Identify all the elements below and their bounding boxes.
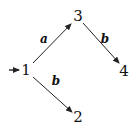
- state-node-4: 4: [119, 64, 129, 79]
- edge-label-1-2: b: [52, 75, 60, 87]
- state-node-3: 3: [73, 9, 83, 24]
- edge-label-3-4: b: [101, 33, 109, 45]
- state-node-1: 1: [21, 63, 31, 78]
- edge-1-3: [33, 24, 71, 63]
- state-node-2: 2: [73, 110, 83, 125]
- edge-label-1-3: a: [40, 33, 48, 45]
- automaton-diagram: 1 2 3 4 a b b: [0, 0, 136, 127]
